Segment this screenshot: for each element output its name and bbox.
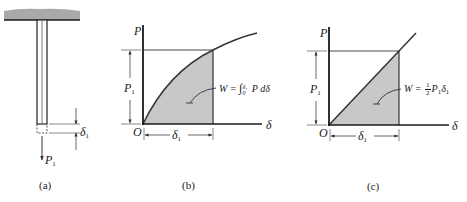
work-formula-c: W = 12P1δ1 xyxy=(404,82,449,97)
caption-a: (a) xyxy=(39,180,51,191)
load-label-a: P1 xyxy=(45,154,56,168)
x-axis-label-b: δ xyxy=(266,119,272,131)
p1-label-b: P1 xyxy=(124,82,135,96)
work-formula-b: W = ∫δ₁0 P dδ xyxy=(219,82,270,96)
caption-b: (b) xyxy=(182,180,195,191)
fixed-support xyxy=(4,9,80,20)
work-diagram xyxy=(0,0,467,202)
d1-label-c: δ1 xyxy=(358,130,367,144)
elongated-end xyxy=(37,124,47,133)
caption-c: (c) xyxy=(367,181,379,192)
work-area-b xyxy=(143,50,213,124)
x-axis-label-c: δ xyxy=(452,120,458,132)
origin-label-b: O xyxy=(133,126,142,138)
d1-label-b: δ1 xyxy=(172,129,181,143)
y-axis-label-b: P xyxy=(134,25,141,37)
panel-a-bar xyxy=(4,9,80,160)
origin-label-c: O xyxy=(319,127,328,139)
elongation-label-a: δ1 xyxy=(80,126,89,140)
p1-label-c: P1 xyxy=(310,83,321,97)
y-axis-label-c: P xyxy=(320,27,327,39)
